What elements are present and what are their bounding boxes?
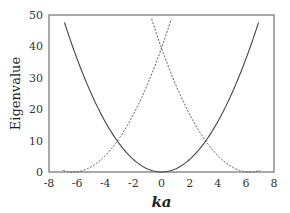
x-tick-label: 6 <box>242 177 249 190</box>
dashed-curve-left <box>63 19 171 172</box>
y-tick-label: 0 <box>36 166 43 179</box>
y-tick-label: 10 <box>29 135 43 148</box>
x-tick-label: 8 <box>271 177 278 190</box>
y-tick-label: 50 <box>29 9 43 22</box>
x-tick-label: -4 <box>100 177 111 190</box>
dashed-curve-right <box>152 19 260 172</box>
y-axis-label: Eigenvalue <box>8 57 23 131</box>
y-tick-label: 30 <box>29 72 43 85</box>
x-tick-label: 0 <box>158 177 165 190</box>
x-tick-label: -2 <box>128 177 139 190</box>
chart: 01020304050-8-6-4-202468kaEigenvalue <box>0 0 290 213</box>
solid-curve <box>64 23 258 173</box>
y-tick-label: 20 <box>29 103 43 116</box>
x-tick-label: -6 <box>72 177 83 190</box>
x-axis-label: ka <box>151 193 171 211</box>
x-tick-label: 2 <box>186 177 193 190</box>
x-tick-label: -8 <box>44 177 55 190</box>
plot-frame <box>49 15 274 172</box>
x-tick-label: 4 <box>214 177 221 190</box>
y-tick-label: 40 <box>29 40 43 53</box>
